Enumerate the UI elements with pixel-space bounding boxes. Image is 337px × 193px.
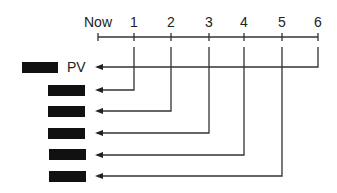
arrow-icon — [95, 152, 103, 158]
label-period-1: 1 — [130, 15, 138, 29]
connector-1 — [100, 47, 134, 90]
label-period-6: 6 — [314, 15, 322, 29]
value-box-period-5 — [49, 171, 86, 182]
arrow-icon — [95, 87, 103, 93]
value-box-period-2 — [48, 106, 85, 117]
arrowheads — [95, 64, 103, 179]
value-box-period-1 — [48, 85, 85, 96]
value-box-period-4 — [49, 149, 86, 160]
label-period-3: 3 — [205, 15, 213, 29]
value-box-period-3 — [48, 128, 85, 139]
arrow-icon — [95, 108, 103, 114]
pv-value-box — [22, 62, 58, 73]
label-period-4: 4 — [240, 15, 248, 29]
label-period-2: 2 — [167, 15, 175, 29]
arrow-icon — [95, 173, 103, 179]
arrow-icon — [95, 130, 103, 136]
label-period-5: 5 — [278, 15, 286, 29]
connector-2 — [100, 47, 171, 111]
pv-label: PV — [67, 60, 86, 74]
arrow-icon — [95, 64, 103, 70]
connector-4 — [100, 47, 244, 155]
label-now: Now — [84, 15, 112, 29]
